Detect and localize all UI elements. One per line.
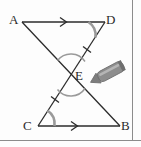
label-e: E [75,69,83,82]
pencil-pointer [88,60,126,87]
label-c: C [23,119,32,132]
tick-mark-de [83,47,91,53]
label-d: D [106,13,115,26]
label-b: B [121,119,130,132]
diagram-canvas [0,0,141,147]
label-a: A [9,13,18,26]
angle-arc-d [89,22,96,38]
geometry-figure: A D E C B [0,0,141,147]
tick-mark-ec [51,97,59,103]
angle-arc-c [48,111,55,127]
